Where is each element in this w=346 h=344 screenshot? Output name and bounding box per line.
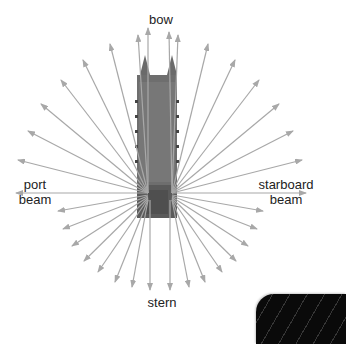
starboard-beam-label: starboard beam: [248, 177, 324, 207]
port-beam-label: port beam: [10, 177, 60, 207]
starboard-label-line1: starboard: [248, 177, 324, 192]
arrow-icon: [16, 28, 150, 290]
port-label-line1: port: [10, 177, 60, 192]
bow-label: bow: [141, 12, 181, 27]
stern-label: stern: [137, 295, 187, 310]
starboard-label-line2: beam: [248, 192, 324, 207]
corner-decoration: [256, 294, 346, 344]
arrow-icon: [169, 32, 306, 290]
port-label-line2: beam: [10, 192, 60, 207]
